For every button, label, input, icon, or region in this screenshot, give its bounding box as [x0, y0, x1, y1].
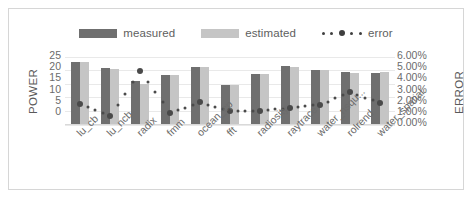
bar-measured[interactable]: [251, 74, 260, 124]
legend-item-measured[interactable]: measured: [79, 27, 175, 39]
bar-measured[interactable]: [191, 67, 200, 124]
tick-power-2: 15: [39, 72, 61, 83]
legend-label-estimated: estimated: [245, 27, 296, 39]
y-axis-title-power: POWER: [27, 69, 39, 114]
tick-error-6: 0.00%: [397, 117, 441, 128]
bar-measured[interactable]: [101, 68, 110, 124]
x-axis-category-labels: lu_cblu_ncbradixfmmocean_cpfftradiosityr…: [65, 126, 395, 188]
legend-dotted-line-icon: [322, 29, 362, 38]
legend-label-error: error: [368, 27, 393, 39]
tick-power-5: 0: [39, 106, 61, 117]
tick-error-2: 4.00%: [397, 72, 441, 83]
chart-legend: measured estimated error: [9, 27, 463, 39]
bar-measured[interactable]: [71, 62, 80, 125]
y-axis-title-error: ERROR: [453, 71, 465, 114]
legend-item-error[interactable]: error: [322, 27, 393, 39]
chart-container: measured estimated error POWER ERROR 252…: [8, 8, 464, 190]
legend-swatch-estimated-icon: [201, 29, 239, 38]
bar-measured[interactable]: [161, 75, 170, 125]
bar-group[interactable]: [155, 57, 185, 125]
y-axis-ticks-power: 2520151050: [39, 50, 61, 117]
legend-item-estimated[interactable]: estimated: [201, 27, 296, 39]
legend-label-measured: measured: [123, 27, 175, 39]
x-label-fft: fft: [224, 124, 239, 139]
legend-swatch-measured-icon: [79, 29, 117, 38]
